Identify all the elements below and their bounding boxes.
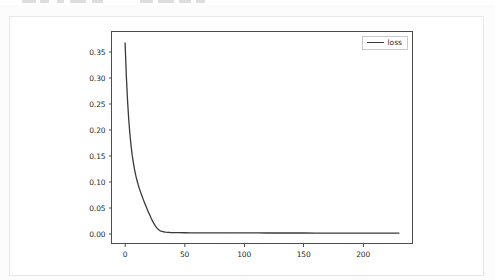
legend-label-loss: loss [388, 39, 403, 47]
x-tick-label: 200 [356, 247, 370, 259]
y-tick-mark [109, 104, 113, 105]
x-tick-label: 100 [237, 247, 251, 259]
x-tick-150: 150 [297, 243, 311, 259]
toolbar-chip-5[interactable] [92, 0, 103, 3]
y-tick-mark [109, 52, 113, 53]
y-tick-label: 0.15 [89, 151, 108, 160]
chart-axes: 0.000.050.100.150.200.250.300.35 0501001… [111, 31, 413, 244]
toolbar-chip-6[interactable] [140, 0, 153, 3]
matplotlib-figure: 0.000.050.100.150.200.250.300.35 0501001… [10, 17, 483, 275]
y-tick-label: 0.05 [89, 203, 108, 212]
toolbar-chip-8[interactable] [179, 0, 191, 3]
y-tick-mark [109, 155, 113, 156]
page-surface: 0.000.050.100.150.200.250.300.35 0501001… [0, 5, 495, 280]
x-tick-0: 0 [123, 243, 128, 259]
x-tick-label: 50 [180, 247, 189, 259]
y-tick-0.15: 0.15 [89, 151, 112, 160]
toolbar-chip-1[interactable] [22, 0, 36, 3]
x-tick-50: 50 [180, 243, 189, 259]
y-tick-0.25: 0.25 [89, 100, 112, 109]
y-tick-label: 0.30 [89, 74, 108, 83]
y-tick-label: 0.10 [89, 177, 108, 186]
y-tick-0.35: 0.35 [89, 48, 112, 57]
loss-curve-svg [112, 32, 412, 243]
x-tick-200: 200 [356, 243, 370, 259]
toolbar-chip-7[interactable] [158, 0, 174, 3]
x-tick-100: 100 [237, 243, 251, 259]
y-tick-label: 0.35 [89, 48, 108, 57]
y-tick-0.10: 0.10 [89, 177, 112, 186]
plot-area [112, 32, 412, 243]
y-tick-mark [109, 181, 113, 182]
toolbar-chip-4[interactable] [70, 0, 86, 3]
toolbar-chip-2[interactable] [40, 0, 49, 3]
y-tick-label: 0.00 [89, 229, 108, 238]
toolbar-chip-3[interactable] [57, 0, 64, 3]
y-tick-0.05: 0.05 [89, 203, 112, 212]
notebook-output-card: 0.000.050.100.150.200.250.300.35 0501001… [9, 16, 484, 276]
y-tick-0.20: 0.20 [89, 125, 112, 134]
y-tick-mark [109, 233, 113, 234]
y-tick-label: 0.25 [89, 100, 108, 109]
y-tick-mark [109, 129, 113, 130]
y-tick-0.30: 0.30 [89, 74, 112, 83]
y-tick-0.00: 0.00 [89, 229, 112, 238]
legend-line-swatch-loss [367, 42, 384, 43]
x-tick-label: 0 [123, 247, 128, 259]
y-tick-mark [109, 78, 113, 79]
series-line-loss [125, 43, 399, 233]
chart-legend: loss [362, 36, 409, 50]
y-tick-mark [109, 207, 113, 208]
x-tick-label: 150 [297, 247, 311, 259]
y-tick-label: 0.20 [89, 125, 108, 134]
toolbar-chip-9[interactable] [196, 0, 205, 3]
